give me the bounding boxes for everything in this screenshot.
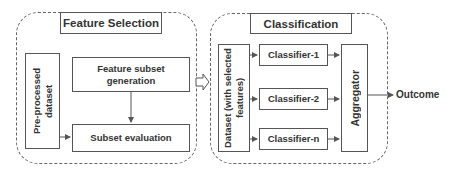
connector-arrows <box>0 0 449 175</box>
block-arrow-icon <box>196 74 209 90</box>
